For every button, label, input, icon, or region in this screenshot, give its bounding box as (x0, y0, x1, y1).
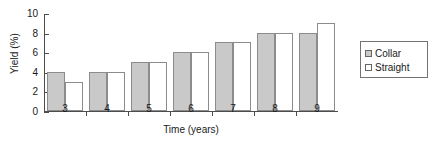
x-tick-label: 7 (213, 103, 253, 114)
bar-group (299, 13, 335, 111)
bar-group (257, 13, 293, 111)
bar-collar (299, 33, 317, 111)
y-tick-label: 4 (22, 68, 38, 78)
legend: Collar Straight (360, 41, 428, 78)
bar-straight (275, 33, 293, 111)
x-axis-label: Time (years) (44, 124, 338, 135)
legend-swatch-straight-icon (365, 64, 372, 71)
legend-swatch-collar-icon (365, 50, 372, 57)
bar-group (215, 13, 251, 111)
y-axis-tick-labels: 0246810 (20, 0, 38, 154)
y-tick-label: 8 (22, 29, 38, 39)
y-axis-label: Yield (%) (9, 14, 20, 94)
y-axis-line (44, 14, 45, 113)
x-tick-label: 8 (255, 103, 295, 114)
bar-chart-figure: Yield (%) 0246810 3456789 Time (years) C… (0, 0, 437, 154)
bar-collar (215, 42, 233, 111)
bar-group (89, 13, 125, 111)
x-tick-label: 5 (129, 103, 169, 114)
x-tick-label: 9 (297, 103, 337, 114)
bar-straight (317, 23, 335, 111)
bar-straight (233, 42, 251, 111)
x-tick-label: 6 (171, 103, 211, 114)
plot-area (44, 14, 338, 112)
y-tick-label: 10 (22, 9, 38, 19)
bar-group (47, 13, 83, 111)
x-tick-label: 4 (87, 103, 127, 114)
legend-item-straight: Straight (365, 60, 427, 74)
legend-label-straight: Straight (375, 62, 409, 73)
y-tick-label: 6 (22, 48, 38, 58)
x-tick-label: 3 (45, 103, 85, 114)
bar-group (131, 13, 167, 111)
y-tick-label: 2 (22, 87, 38, 97)
legend-label-collar: Collar (375, 48, 401, 59)
bar-group (173, 13, 209, 111)
legend-item-collar: Collar (365, 46, 427, 60)
bar-collar (257, 33, 275, 111)
y-tick-label: 0 (22, 107, 38, 117)
